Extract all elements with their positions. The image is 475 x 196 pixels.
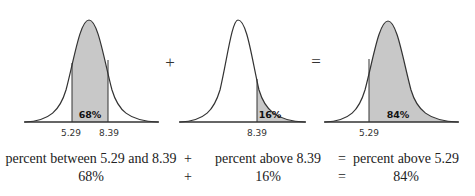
- equation-equals-value: =: [338, 169, 346, 185]
- equals-operator: =: [311, 52, 321, 71]
- equation-term3-text: percent above 5.29: [353, 151, 459, 167]
- curve-panel-above-lower: 84% 5.29: [324, 21, 459, 138]
- equation-plus-value: +: [184, 169, 192, 185]
- x-label-cutoff: 8.39: [247, 128, 267, 138]
- bell-curve-fill: [325, 21, 458, 122]
- equation-value1: 68%: [78, 169, 104, 185]
- equation-plus-text: +: [184, 151, 192, 167]
- percent-label: 68%: [79, 109, 102, 120]
- curve-panel-between: 68% 5.29 8.39: [24, 20, 159, 138]
- equation-value2: 16%: [255, 169, 281, 185]
- curve-panel-above-upper: 16% 8.39: [179, 20, 306, 138]
- bell-curve-fill: [180, 20, 305, 122]
- percent-label: 16%: [259, 109, 282, 120]
- equation-equals-text: =: [338, 151, 346, 167]
- percent-label: 84%: [387, 109, 410, 120]
- x-label-cutoff: 5.29: [359, 128, 379, 138]
- plus-operator: +: [165, 53, 175, 72]
- bell-curve-fill: [25, 20, 158, 122]
- equation-term1-text: percent between 5.29 and 8.39: [5, 151, 176, 167]
- x-label-upper: 8.39: [99, 128, 119, 138]
- x-label-lower: 5.29: [61, 128, 81, 138]
- bell-curve-outline: [180, 20, 305, 122]
- equation-value3: 84%: [393, 169, 419, 185]
- equation-term2-text: percent above 8.39: [215, 151, 321, 167]
